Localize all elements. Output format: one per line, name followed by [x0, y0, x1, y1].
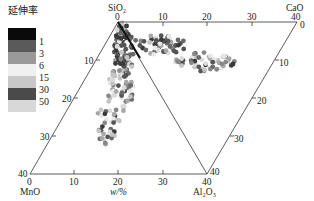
data-point: [138, 43, 143, 48]
top-tick: 0: [115, 12, 120, 22]
data-point: [164, 48, 169, 53]
data-point: [133, 38, 138, 43]
data-point: [192, 52, 197, 57]
bottom-tick: 0: [27, 177, 32, 187]
bottom-tick: 30: [158, 177, 168, 187]
data-point: [168, 44, 173, 49]
data-point: [125, 55, 130, 60]
data-point: [120, 62, 125, 67]
data-point: [117, 68, 122, 73]
data-point: [110, 73, 115, 78]
data-point: [167, 34, 172, 39]
data-point: [214, 67, 219, 72]
data-point: [189, 60, 194, 65]
data-point: [118, 57, 123, 62]
data-point: [210, 64, 215, 69]
data-point: [128, 83, 133, 88]
data-point: [125, 98, 130, 103]
data-point: [179, 63, 184, 68]
data-point: [112, 112, 117, 117]
data-point: [115, 44, 120, 49]
data-point: [152, 52, 157, 57]
data-point: [128, 89, 133, 94]
top-tick: 30: [247, 12, 257, 22]
bottom-tick: 40: [202, 177, 212, 187]
right-tick: 10: [279, 58, 289, 68]
data-point: [154, 38, 159, 43]
data-points: [96, 20, 237, 146]
data-point: [118, 76, 123, 81]
data-point: [219, 61, 224, 66]
data-point: [181, 47, 186, 52]
data-point: [116, 83, 121, 88]
data-point: [130, 64, 135, 69]
data-point: [203, 61, 208, 66]
data-point: [110, 132, 115, 137]
data-point: [159, 37, 164, 42]
data-point: [176, 43, 181, 48]
vertex-label-al2o3: Al₂O₃: [193, 187, 216, 197]
data-point: [124, 24, 129, 29]
data-point: [122, 85, 127, 90]
data-point: [101, 132, 106, 137]
data-point: [147, 40, 152, 45]
right-tick: 30: [234, 134, 244, 144]
right-tick: 40: [210, 167, 220, 177]
data-point: [208, 53, 213, 58]
data-point: [103, 141, 108, 146]
right-tick: 20: [257, 96, 267, 106]
data-point: [229, 63, 234, 68]
top-tick: 20: [202, 12, 212, 22]
vertex-label-mno: MnO: [20, 187, 40, 197]
data-point: [166, 39, 171, 44]
data-point: [196, 64, 201, 69]
data-point: [97, 129, 102, 134]
data-point: [121, 108, 126, 113]
data-point: [115, 27, 120, 32]
data-point: [176, 38, 181, 43]
data-point: [144, 48, 149, 53]
data-point: [142, 39, 147, 44]
data-point: [210, 60, 215, 65]
right-tick: 0: [300, 20, 305, 30]
data-point: [106, 99, 111, 104]
left-tick: 20: [62, 94, 72, 104]
data-point: [124, 80, 129, 85]
data-point: [102, 121, 107, 126]
data-point: [202, 67, 207, 72]
left-tick: 30: [40, 132, 50, 142]
data-point: [202, 50, 207, 55]
x-axis-label: w/%: [110, 187, 127, 197]
data-point: [227, 56, 232, 61]
ternary-plot: SiO₂ CaO MnO Al₂O₃ w/% 0 10 20 30 40 10 …: [0, 0, 314, 201]
data-point: [100, 136, 105, 141]
data-point: [122, 74, 127, 79]
data-point: [114, 89, 119, 94]
data-point: [153, 46, 158, 51]
data-point: [106, 93, 111, 98]
data-point: [196, 55, 201, 60]
data-point: [120, 90, 125, 95]
left-tick: 10: [84, 56, 94, 66]
data-point: [175, 59, 180, 64]
data-point: [128, 94, 133, 99]
bottom-tick: 20: [113, 177, 123, 187]
data-point: [116, 118, 121, 123]
data-point: [221, 54, 226, 59]
data-point: [123, 47, 128, 52]
data-point: [122, 104, 127, 109]
data-point: [119, 36, 124, 41]
data-point: [119, 50, 124, 55]
top-tick: 10: [158, 12, 168, 22]
data-point: [111, 120, 116, 125]
data-point: [122, 43, 127, 48]
data-point: [179, 56, 184, 61]
data-point: [148, 34, 153, 39]
bottom-tick: 10: [69, 177, 79, 187]
data-point: [103, 111, 108, 116]
data-point: [131, 52, 136, 57]
data-point: [114, 108, 119, 113]
data-point: [174, 50, 179, 55]
